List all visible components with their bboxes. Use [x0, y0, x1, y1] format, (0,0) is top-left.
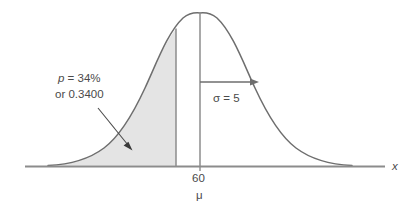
sigma-arrowhead-icon [250, 79, 259, 86]
normal-distribution-figure: p = 34% or 0.3400 σ = 5 60 μ x [0, 0, 413, 218]
sigma-label: σ = 5 [213, 92, 240, 105]
x-axis-label: x [392, 160, 398, 173]
probability-value: = 34% [64, 72, 100, 84]
mean-symbol-label: μ [196, 189, 203, 202]
probability-label: p = 34% [58, 72, 101, 85]
mean-value-label: 60 [192, 172, 205, 185]
probability-decimal-label: or 0.3400 [55, 88, 104, 101]
distribution-plot [0, 0, 413, 218]
